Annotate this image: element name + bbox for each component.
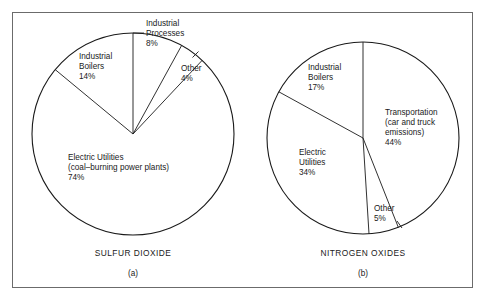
figure-container: Industrial Processes 8% Other 4% Industr… [0,0,488,301]
left-label-other-line1: Other [181,64,202,73]
right-label-electric-utilities-percent: 34% [299,168,315,177]
right-label-transportation-line2: (car and truck [385,118,436,127]
right-label-electric-utilities-line1: Electric [299,148,326,157]
left-label-industrial-processes-percent: 8% [146,39,158,48]
right-label-industrial-boilers-line1: Industrial [308,63,341,72]
left-label-electric-utilities-percent: 74% [68,173,84,182]
left-label-electric-utilities-line1: Electric Utilities [68,153,124,162]
right-slice-divider-electric-boilers [279,92,363,138]
left-chart-panel-label: (a) [128,269,138,278]
left-label-industrial-boilers-percent: 14% [79,72,95,81]
right-label-other-line1: Other [374,204,395,213]
left-label-other-percent: 4% [181,74,193,83]
right-slice-divider-other-electric [363,138,369,234]
left-label-industrial-boilers-line2: Boilers [79,62,104,71]
right-label-transportation-line1: Transportation [385,108,438,117]
right-pie-chart: Industrial Boilers 17% Transportation (c… [267,42,459,278]
right-chart-caption: NITROGEN OXIDES [321,248,406,258]
left-label-industrial-processes-line1: Industrial [146,19,179,28]
right-chart-panel-label: (b) [358,269,368,278]
left-label-electric-utilities-line2: (coal–burning power plants) [68,163,169,172]
left-pie-chart: Industrial Processes 8% Other 4% Industr… [32,19,234,278]
right-label-industrial-boilers-percent: 17% [308,83,324,92]
left-chart-caption: SULFUR DIOXIDE [95,248,172,258]
pie-charts-svg: Industrial Processes 8% Other 4% Industr… [0,0,488,301]
right-label-transportation-percent: 44% [385,138,401,147]
right-label-electric-utilities-line2: Utilities [299,158,325,167]
right-label-transportation-line3: emissions) [385,128,424,137]
left-label-industrial-processes-line2: Processes [146,29,184,38]
right-label-other-percent: 5% [374,214,386,223]
left-label-industrial-boilers-line1: Industrial [79,52,112,61]
right-label-industrial-boilers-line2: Boilers [308,73,333,82]
